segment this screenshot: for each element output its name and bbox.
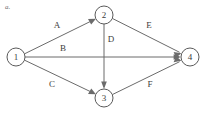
edge-F-label: F: [147, 79, 152, 89]
figure-container: a. A B C D E: [0, 0, 201, 123]
edge-A-label: A: [54, 20, 61, 30]
edge-D-arrowhead: [101, 82, 107, 89]
node-3[interactable]: 3: [95, 89, 113, 107]
edge-F: F: [112, 56, 181, 94]
edge-C: C: [24, 60, 96, 94]
edge-E: E: [112, 18, 181, 57]
edge-B-label: B: [60, 43, 66, 53]
node-1[interactable]: 1: [7, 48, 25, 66]
node-4[interactable]: 4: [181, 48, 199, 66]
edge-C-label: C: [49, 79, 55, 89]
node-1-label: 1: [14, 52, 19, 62]
edge-F-line: [112, 62, 179, 95]
edge-C-line: [24, 60, 94, 93]
edge-D-label: D: [108, 34, 115, 44]
node-4-label: 4: [188, 52, 193, 62]
node-2-label: 2: [102, 10, 107, 20]
node-3-label: 3: [102, 93, 107, 103]
directed-graph: A B C D E F: [0, 0, 201, 123]
edge-B: B: [25, 43, 181, 60]
edge-E-label: E: [146, 20, 152, 30]
node-2[interactable]: 2: [95, 6, 113, 24]
